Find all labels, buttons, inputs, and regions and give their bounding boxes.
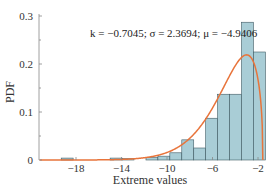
x-tick-label: −18: [67, 162, 85, 174]
y-tick-label: 0: [28, 154, 34, 166]
histogram-bar: [206, 118, 218, 160]
x-tick-label: −6: [207, 162, 219, 174]
histogram-bar: [170, 153, 182, 160]
histogram-bars: [61, 22, 265, 160]
y-tick-label: 0.2: [19, 58, 33, 70]
y-tick-label: 0.3: [19, 10, 33, 22]
histogram-bar: [230, 94, 242, 160]
histogram-bar: [158, 156, 170, 160]
fit-parameters-annotation: k = −0.7045; σ = 2.3694; μ = −4.9406: [90, 27, 258, 39]
histogram-bar: [242, 22, 254, 160]
y-axis-label: PDF: [3, 81, 17, 103]
x-axis-label: Extreme values: [113, 173, 188, 187]
x-tick-label: −2: [252, 162, 264, 174]
gev-histogram-chart: 00.10.20.3−18−14−10−6−2 k = −0.7045; σ =…: [0, 0, 276, 190]
histogram-bar: [218, 94, 230, 160]
y-tick-label: 0.1: [19, 106, 33, 118]
histogram-bar: [194, 148, 206, 160]
